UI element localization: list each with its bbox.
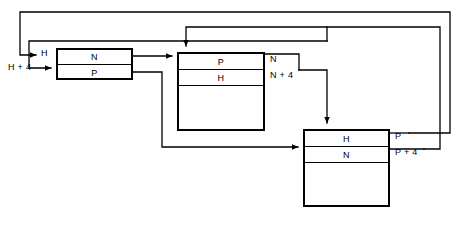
middle-block-row-empty: [179, 86, 263, 131]
middle-block: PH: [177, 52, 265, 131]
right-block-row-empty: [305, 163, 388, 207]
label-h: H: [41, 48, 48, 58]
right-block: HN: [303, 129, 390, 207]
left-block-row-n: N: [58, 50, 131, 65]
label-p: P: [395, 131, 401, 141]
right-block-row-n: N: [305, 147, 388, 163]
diagram-canvas: NPPHHN HH + 4NN + 4PP + 4: [0, 0, 472, 225]
label-h-plus-4: H + 4: [8, 62, 31, 72]
middle-block-row-p: P: [179, 54, 263, 70]
label-p-plus-4: P + 4: [395, 147, 418, 157]
label-n-plus-4: N + 4: [270, 70, 293, 80]
left-block: NP: [56, 48, 133, 80]
right-block-row-h: H: [305, 131, 388, 147]
left-block-row-p: P: [58, 65, 131, 80]
wire-nplus4-to-right-top: [299, 70, 327, 123]
middle-block-row-h: H: [179, 70, 263, 86]
label-n: N: [270, 54, 277, 64]
